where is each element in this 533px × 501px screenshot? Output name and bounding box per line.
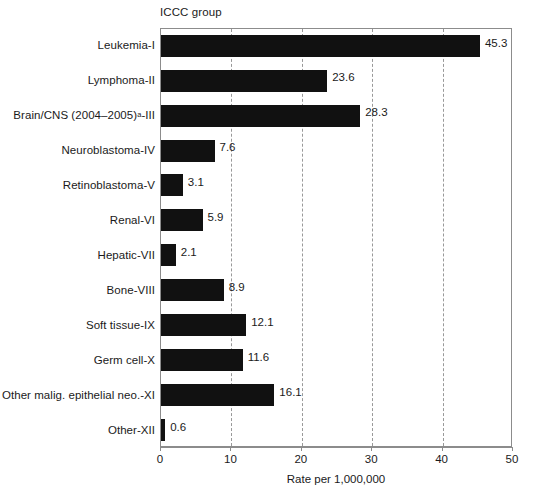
x-tick-0: [160, 447, 161, 451]
category-label: Retinoblastoma-V: [63, 168, 155, 203]
bar: [161, 35, 480, 57]
bar: [161, 105, 360, 127]
x-tick-10: [230, 447, 231, 451]
bar: [161, 174, 183, 196]
category-label: Other-XII: [108, 412, 155, 447]
bar-value-label: 7.6: [220, 142, 236, 154]
bar: [161, 70, 327, 92]
x-tick-label: 30: [365, 453, 378, 465]
bar-value-label: 23.6: [332, 72, 354, 84]
bar-value-label: 0.6: [170, 422, 186, 434]
category-axis-labels: Leukemia-ILymphoma-IIBrain/CNS (2004–200…: [0, 28, 155, 447]
bar-row: 8.9: [161, 273, 511, 308]
category-label: Renal-VI: [110, 203, 155, 238]
bar: [161, 279, 224, 301]
category-label: Soft tissue-IX: [86, 307, 155, 342]
bar-value-label: 11.6: [248, 352, 270, 364]
bar-row: 28.3: [161, 99, 511, 134]
x-tick-label: 10: [224, 453, 237, 465]
category-label: Neuroblastoma-IV: [62, 133, 155, 168]
bar-value-label: 5.9: [208, 212, 224, 224]
category-label: Brain/CNS (2004–2005)a-III: [13, 98, 155, 133]
x-tick-label: 20: [294, 453, 307, 465]
bar-value-label: 16.1: [279, 387, 301, 399]
bar-value-label: 28.3: [365, 107, 387, 119]
category-label: Other malig. epithelial neo.-XI: [2, 377, 155, 412]
bar-row: 7.6: [161, 134, 511, 169]
x-axis-line: [160, 447, 512, 448]
bar: [161, 140, 215, 162]
x-tick-label: 0: [157, 453, 163, 465]
x-tick-label: 50: [506, 453, 519, 465]
category-label: Hepatic-VII: [98, 238, 155, 273]
bar: [161, 419, 165, 441]
category-label: Germ cell-X: [94, 342, 155, 377]
bar: [161, 349, 243, 371]
bar-row: 23.6: [161, 64, 511, 99]
x-tick-20: [301, 447, 302, 451]
bar-value-label: 2.1: [181, 247, 197, 259]
plot-area: 45.323.628.37.63.15.92.18.912.111.616.10…: [160, 28, 512, 447]
x-tick-40: [442, 447, 443, 451]
bar: [161, 244, 176, 266]
bar-rows: 45.323.628.37.63.15.92.18.912.111.616.10…: [161, 29, 511, 446]
x-axis-title: Rate per 1,000,000: [160, 473, 512, 485]
bar-row: 5.9: [161, 204, 511, 239]
bar-row: 0.6: [161, 413, 511, 448]
bar-value-label: 3.1: [188, 177, 204, 189]
x-tick-label: 40: [435, 453, 448, 465]
bar: [161, 314, 246, 336]
bar-row: 45.3: [161, 29, 511, 64]
bar-row: 11.6: [161, 343, 511, 378]
bar-value-label: 8.9: [229, 282, 245, 294]
bar-row: 2.1: [161, 239, 511, 274]
category-label: Lymphoma-II: [88, 63, 155, 98]
chart-title: ICCC group: [160, 6, 222, 18]
bar-row: 12.1: [161, 308, 511, 343]
bar: [161, 209, 203, 231]
x-tick-30: [371, 447, 372, 451]
category-label: Leukemia-I: [98, 28, 155, 63]
bar-row: 3.1: [161, 169, 511, 204]
bar-value-label: 45.3: [485, 38, 507, 50]
bar-chart: ICCC group 45.323.628.37.63.15.92.18.912…: [0, 0, 533, 501]
bar-row: 16.1: [161, 378, 511, 413]
bar-value-label: 12.1: [251, 317, 273, 329]
bar: [161, 384, 274, 406]
x-tick-50: [512, 447, 513, 451]
category-label: Bone-VIII: [107, 272, 155, 307]
